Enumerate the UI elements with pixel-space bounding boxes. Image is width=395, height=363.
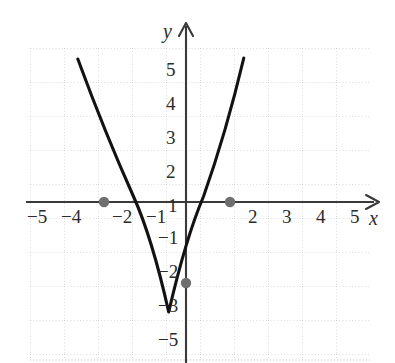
graph-figure: y x 5 4 3 2 1 −1 −2 −3 −5 −5 −4 −2 −1 2 … [0,0,395,363]
x-tick-label-4: 4 [316,207,326,226]
y-tick-label-2: 2 [166,162,176,181]
y-tick-label-3: 3 [166,128,176,147]
x-tick-label-minus-5: −5 [27,207,47,226]
x-tick-label-5: 5 [350,207,360,226]
y-tick-label-4: 4 [166,94,176,113]
y-tick-label-1: 1 [168,196,178,215]
y-tick-label-minus-5: −5 [158,330,178,349]
y-tick-label-5: 5 [166,60,176,79]
y-tick-label-minus-3: −3 [158,296,178,315]
y-tick-label-minus-2: −2 [158,262,178,281]
y-axis-label: y [163,21,172,41]
x-tick-label-2: 2 [248,207,258,226]
point-right-x-intercept [225,197,235,207]
coordinate-plane [0,0,395,363]
x-tick-label-minus-2: −2 [112,207,132,226]
x-tick-label-3: 3 [282,207,292,226]
point-y-intercept [181,278,191,288]
y-tick-label-minus-1: −1 [158,228,178,247]
x-tick-label-minus-4: −4 [61,207,81,226]
x-tick-label-minus-1: −1 [146,207,166,226]
x-axis-label: x [369,208,378,228]
point-left-x-intercept [99,197,109,207]
